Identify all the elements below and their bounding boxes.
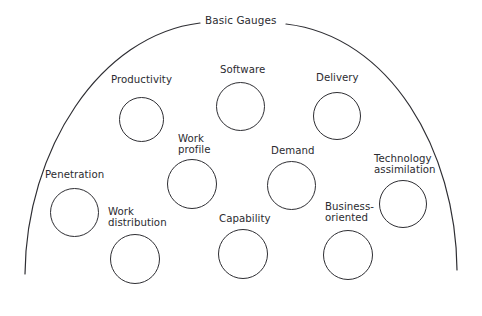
gauge-label-demand: Demand: [271, 145, 315, 156]
gauge-circle-technology-assimilation[interactable]: [379, 180, 427, 228]
gauge-circle-productivity[interactable]: [119, 97, 164, 142]
gauge-circle-software[interactable]: [216, 82, 265, 131]
gauge-circle-capability[interactable]: [218, 229, 268, 279]
diagram-canvas: Basic Gauges ProductivitySoftwareDeliver…: [0, 0, 482, 316]
gauge-label-penetration: Penetration: [45, 169, 104, 180]
gauge-label-productivity: Productivity: [111, 74, 172, 85]
gauge-circle-delivery[interactable]: [313, 92, 361, 140]
gauge-label-work-distribution: Work distribution: [108, 206, 167, 229]
gauge-label-software: Software: [220, 64, 265, 75]
gauge-label-capability: Capability: [219, 213, 271, 224]
gauge-label-delivery: Delivery: [316, 72, 359, 83]
gauge-circle-business-oriented[interactable]: [323, 230, 373, 280]
gauge-circle-demand[interactable]: [267, 161, 316, 210]
gauge-circle-work-distribution[interactable]: [110, 234, 160, 284]
page-title: Basic Gauges: [202, 14, 279, 26]
arc-left-segment: [25, 23, 200, 274]
gauge-label-work-profile: Work profile: [178, 133, 211, 156]
gauge-circle-penetration[interactable]: [50, 188, 99, 237]
gauge-circle-work-profile[interactable]: [167, 159, 217, 209]
gauge-label-technology-assimilation: Technology assimilation: [374, 153, 436, 176]
gauge-label-business-oriented: Business- oriented: [325, 201, 374, 224]
